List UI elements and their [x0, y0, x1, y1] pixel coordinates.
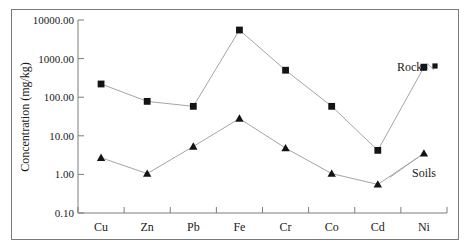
x-tick-label: Fe: [233, 220, 245, 234]
data-point-rocks: [98, 81, 105, 88]
y-tick-label: 1000.00: [38, 53, 74, 65]
y-tick-label: 100.00: [44, 91, 75, 103]
y-tick-label: 10.00: [49, 130, 74, 142]
x-tick-label: Ni: [418, 220, 431, 234]
data-point-rocks: [190, 103, 197, 110]
x-tick-label: Cd: [371, 220, 385, 234]
data-point-rocks: [374, 147, 381, 154]
y-axis-title: Concentration (mg/kg): [18, 62, 32, 172]
series-layer: [97, 27, 428, 188]
x-tick-label: Zn: [141, 220, 154, 234]
x-tick-label: Cu: [94, 220, 108, 234]
data-point-soils: [189, 142, 197, 149]
data-point-soils: [327, 169, 335, 176]
rocks-legend-marker: [432, 63, 437, 68]
series-annotations: RocksSoils: [390, 60, 438, 181]
x-tick-label: Co: [325, 220, 339, 234]
rocks-series-label: Rocks: [397, 60, 427, 74]
x-axis-ticks: CuZnPbFeCrCoCdNi: [78, 207, 447, 234]
y-tick-label: 1.00: [55, 168, 75, 180]
data-point-soils: [143, 169, 151, 176]
data-point-rocks: [236, 27, 243, 34]
y-tick-label: 10000.00: [33, 14, 75, 26]
y-tick-label: 0.10: [55, 207, 75, 219]
series-line-rocks: [101, 30, 424, 150]
data-point-soils: [235, 114, 243, 121]
data-point-soils: [420, 149, 428, 156]
x-tick-label: Pb: [187, 220, 200, 234]
data-point-rocks: [328, 103, 335, 110]
data-point-soils: [97, 154, 105, 161]
data-point-soils: [281, 144, 289, 151]
y-axis-ticks: 10000.001000.00100.0010.001.000.10: [33, 14, 84, 219]
data-point-rocks: [144, 98, 151, 105]
x-tick-label: Cr: [280, 220, 292, 234]
chart-figure: Concentration (mg/kg) 10000.001000.00100…: [0, 0, 469, 251]
chart-plot: Concentration (mg/kg) 10000.001000.00100…: [0, 0, 469, 251]
data-point-rocks: [282, 67, 289, 74]
soils-series-label: Soils: [412, 166, 436, 180]
